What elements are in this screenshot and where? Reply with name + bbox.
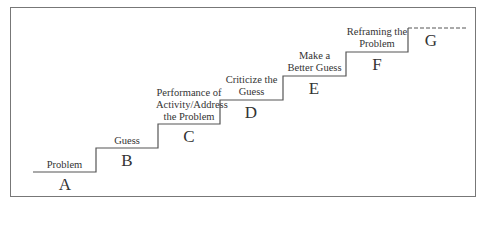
step-b-letter: B [112,152,142,170]
step-c-label: Performance of Activity/Address the Prob… [156,87,222,123]
step-e-label: Make a Better Guess [283,50,346,74]
step-b-label: Guess [96,135,158,147]
step-f-letter: F [362,56,392,74]
step-a-label: Problem [33,159,96,171]
step-d-letter: D [236,104,266,122]
step-f-label: Reframing the Problem [346,26,408,50]
step-g-letter: G [416,32,446,50]
step-e-letter: E [299,80,329,98]
step-a-letter: A [50,176,80,194]
step-c-letter: C [174,128,204,146]
step-d-label: Criticize the Guess [220,74,283,98]
